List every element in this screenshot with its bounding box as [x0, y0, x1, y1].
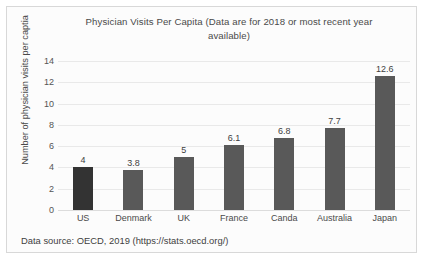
- y-axis-tick-label: 10: [32, 99, 54, 109]
- gridline: [58, 210, 410, 211]
- x-axis-tick-label: Denmark: [108, 213, 158, 223]
- bar-slot: 6.1: [209, 61, 259, 210]
- y-axis-tick-labels: 02468101214: [32, 61, 54, 210]
- bar-slot: 12.6: [360, 61, 410, 210]
- bar-series: 43.856.16.87.712.6: [58, 61, 410, 210]
- x-axis-tick-label: UK: [159, 213, 209, 223]
- bar-slot: 6.8: [259, 61, 309, 210]
- chart-frame: Physician Visits Per Capita (Data are fo…: [6, 6, 417, 253]
- y-axis-tick-label: 14: [32, 56, 54, 66]
- x-axis-tick-label: Japan: [360, 213, 410, 223]
- y-axis-title: Number of physician visits per captia: [20, 10, 30, 170]
- y-axis-tick-label: 4: [32, 162, 54, 172]
- bar-value-label: 3.8: [127, 158, 140, 168]
- chart-title-line-1: Physician Visits Per Capita (Data are fo…: [53, 15, 405, 29]
- x-axis-tick-label: US: [58, 213, 108, 223]
- x-axis-tick-label: France: [209, 213, 259, 223]
- y-axis-tick-label: 12: [32, 77, 54, 87]
- bar-slot: 7.7: [309, 61, 359, 210]
- source-note: Data source: OECD, 2019 (https://stats.o…: [21, 235, 228, 246]
- bar-value-label: 6.1: [228, 133, 241, 143]
- x-axis-tick-label: Canda: [259, 213, 309, 223]
- bar[interactable]: [325, 128, 345, 210]
- bar-value-label: 6.8: [278, 126, 291, 136]
- bar-value-label: 4: [81, 155, 86, 165]
- bar-slot: 4: [58, 61, 108, 210]
- x-axis-tick-label: Australia: [309, 213, 359, 223]
- y-axis-tick-label: 6: [32, 141, 54, 151]
- bar[interactable]: [375, 76, 395, 210]
- chart-title: Physician Visits Per Capita (Data are fo…: [53, 15, 405, 43]
- bar[interactable]: [274, 138, 294, 210]
- bar-slot: 3.8: [108, 61, 158, 210]
- bar-value-label: 5: [181, 145, 186, 155]
- bar[interactable]: [123, 170, 143, 210]
- y-axis-tick-label: 8: [32, 120, 54, 130]
- x-axis-tick-labels: USDenmarkUKFranceCandaAustraliaJapan: [58, 213, 410, 227]
- bar[interactable]: [73, 167, 93, 210]
- bar[interactable]: [224, 145, 244, 210]
- bar-value-label: 7.7: [328, 116, 341, 126]
- bar[interactable]: [174, 157, 194, 210]
- bar-value-label: 12.6: [376, 64, 394, 74]
- y-axis-tick-label: 2: [32, 184, 54, 194]
- chart-title-line-2: available): [53, 29, 405, 43]
- y-axis-tick-label: 0: [32, 205, 54, 215]
- bar-slot: 5: [159, 61, 209, 210]
